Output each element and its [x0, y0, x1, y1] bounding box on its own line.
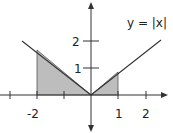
y-tick-label: 1 — [74, 62, 82, 76]
y-axis-arrow-up-icon — [88, 2, 94, 9]
y-tick-label: 2 — [72, 35, 80, 49]
y-axis-arrow-down-icon — [88, 125, 94, 132]
abs-value-graph: -2 1 2 1 2 y = |x| — [0, 0, 173, 133]
x-tick-label: 2 — [142, 107, 150, 121]
x-tick-label: 1 — [115, 107, 123, 121]
x-tick-label: -2 — [27, 107, 39, 121]
function-label: y = |x| — [127, 16, 167, 30]
x-axis-arrow-icon — [161, 92, 168, 98]
